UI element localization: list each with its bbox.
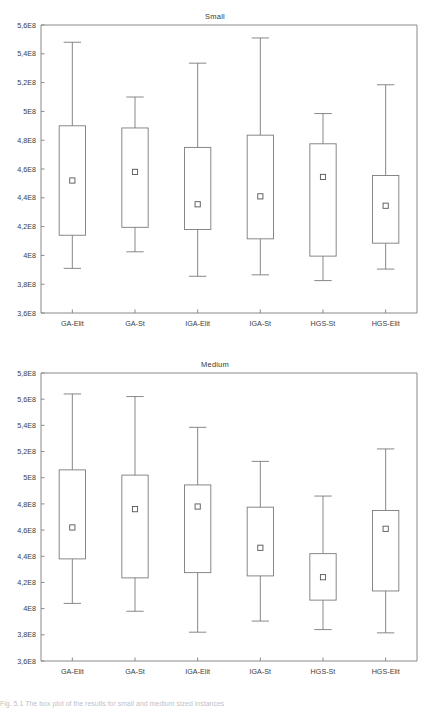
boxplot-medium: 3,6E83,8E84E84,2E84,4E84,6E84,8E85E85,2E… xyxy=(0,368,430,698)
y-axis-tick-label: 5,6E8 xyxy=(17,395,36,404)
chart-block-medium: Medium 3,6E83,8E84E84,2E84,4E84,6E84,8E8… xyxy=(0,352,430,702)
x-axis-tick-label: GA-St xyxy=(125,319,145,328)
box-plot-item xyxy=(247,461,273,621)
y-axis-tick-label: 5E8 xyxy=(23,473,36,482)
boxplot-medium-svg: 3,6E83,8E84E84,2E84,4E84,6E84,8E85E85,2E… xyxy=(0,368,430,698)
y-axis-tick-label: 4,8E8 xyxy=(17,500,36,509)
y-axis-tick-label: 5,4E8 xyxy=(17,49,36,58)
x-axis-tick-label: HGS-St xyxy=(311,667,336,676)
y-axis-tick-label: 5,4E8 xyxy=(17,421,36,430)
box-plot-item xyxy=(310,114,336,281)
box-plot-item xyxy=(122,397,148,612)
x-axis-tick-label: GA-Elit xyxy=(61,319,84,328)
figure-page: Small 3,6E83,8E84E84,2E84,4E84,6E84,8E85… xyxy=(0,0,430,710)
y-axis-tick-label: 4,8E8 xyxy=(17,136,36,145)
x-axis-tick-label: IGA-Elit xyxy=(185,319,210,328)
x-axis-tick-label: IGA-Elit xyxy=(185,667,210,676)
y-axis-tick-label: 3,8E8 xyxy=(17,280,36,289)
box-plot-item xyxy=(247,38,273,275)
box-plot-item xyxy=(185,63,211,276)
x-axis-tick-label: IGA-St xyxy=(250,667,272,676)
x-axis-tick-label: HGS-St xyxy=(311,319,336,328)
y-axis-tick-label: 4,4E8 xyxy=(17,552,36,561)
boxplot-small: 3,6E83,8E84E84,2E84,4E84,6E84,8E85E85,2E… xyxy=(0,20,430,350)
y-axis-tick-label: 5,6E8 xyxy=(17,21,36,30)
y-axis-tick-label: 4,2E8 xyxy=(17,222,36,231)
chart-block-small: Small 3,6E83,8E84E84,2E84,4E84,6E84,8E85… xyxy=(0,0,430,350)
x-axis-tick-label: GA-Elit xyxy=(61,667,84,676)
box-plot-item xyxy=(373,449,399,633)
y-axis-tick-label: 4,6E8 xyxy=(17,165,36,174)
box-plot-item xyxy=(122,97,148,252)
y-axis-tick-label: 5,8E8 xyxy=(17,369,36,378)
box-plot-item xyxy=(59,394,85,603)
y-axis-tick-label: 4,4E8 xyxy=(17,193,36,202)
x-axis-tick-label: IGA-St xyxy=(250,319,272,328)
y-axis-tick-label: 4,2E8 xyxy=(17,578,36,587)
box-plot-item xyxy=(310,496,336,630)
y-axis-tick-label: 4,6E8 xyxy=(17,526,36,535)
box-plot-item xyxy=(373,85,399,269)
y-axis-tick-label: 5,2E8 xyxy=(17,78,36,87)
y-axis-tick-label: 5E8 xyxy=(23,107,36,116)
y-axis-tick-label: 5,2E8 xyxy=(17,447,36,456)
y-axis-tick-label: 4E8 xyxy=(23,251,36,260)
box-plot-item xyxy=(59,42,85,268)
box-plot-item xyxy=(185,427,211,632)
y-axis-tick-label: 3,6E8 xyxy=(17,657,36,666)
figure-caption: Fig. 5.1 The box plot of the results for… xyxy=(0,697,430,710)
x-axis-tick-label: GA-St xyxy=(125,667,145,676)
y-axis-tick-label: 3,6E8 xyxy=(17,309,36,318)
x-axis-tick-label: HGS-Elit xyxy=(372,319,400,328)
x-axis-tick-label: HGS-Elit xyxy=(372,667,400,676)
y-axis-tick-label: 3,8E8 xyxy=(17,630,36,639)
boxplot-small-svg: 3,6E83,8E84E84,2E84,4E84,6E84,8E85E85,2E… xyxy=(0,20,430,350)
y-axis-tick-label: 4E8 xyxy=(23,604,36,613)
